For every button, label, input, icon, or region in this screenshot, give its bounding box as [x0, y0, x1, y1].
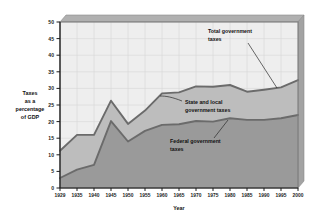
x-tick-label: 1945: [106, 193, 117, 198]
chart-bevel-top: [60, 15, 304, 22]
y-axis-title-line-4: of GDP: [21, 114, 40, 120]
annotation-state-local-line-1: State and local: [185, 99, 223, 105]
y-tick-label: 15: [48, 135, 54, 141]
x-tick-label: 1960: [157, 193, 168, 198]
chart-bevel-right: [298, 15, 304, 188]
y-axis-title-line-2: as a: [25, 98, 36, 104]
annotation-federal-line-1: Federal government: [170, 138, 221, 144]
y-tick-label: 45: [48, 36, 54, 42]
y-tick-label: 25: [48, 102, 54, 108]
y-axis-title-line-1: Taxes: [23, 90, 38, 96]
x-tick-label: 1955: [140, 193, 151, 198]
x-tick-label: 1995: [276, 193, 287, 198]
y-tick-label: 20: [48, 119, 54, 125]
x-tick-label: 1935: [72, 193, 83, 198]
chart-figure: 0 5 10 15 20 25 30 35 40 45 50 1929 1935…: [0, 0, 331, 217]
y-tick-label: 5: [51, 168, 54, 174]
x-tick-label: 2000: [293, 193, 304, 198]
x-tick-label: 1980: [225, 193, 236, 198]
x-tick-label: 1929: [55, 193, 66, 198]
annotation-total-line-1: Total government: [208, 28, 252, 34]
y-tick-label: 40: [48, 52, 54, 58]
annotation-total-line-2: taxes: [208, 36, 222, 42]
y-tick-label: 35: [48, 69, 54, 75]
y-tick-label: 0: [51, 185, 54, 191]
y-tick-label: 50: [48, 19, 54, 25]
x-tick-label: 1965: [174, 193, 185, 198]
x-tick-label: 1975: [208, 193, 219, 198]
y-axis-title-line-3: percentage: [16, 106, 45, 112]
x-tick-label: 1940: [89, 193, 100, 198]
x-tick-label: 1990: [259, 193, 270, 198]
x-axis-tick-labels: 1929 1935 1940 1945 1950 1955 1960 1965 …: [55, 193, 304, 198]
x-axis-title: Year: [173, 205, 185, 211]
y-tick-label: 30: [48, 85, 54, 91]
annotation-state-local-line-2: government taxes: [185, 107, 230, 113]
x-tick-label: 1950: [123, 193, 134, 198]
x-tick-label: 1985: [242, 193, 253, 198]
annotation-federal-line-2: taxes: [170, 146, 184, 152]
x-tick-label: 1970: [191, 193, 202, 198]
y-tick-label: 10: [48, 152, 54, 158]
